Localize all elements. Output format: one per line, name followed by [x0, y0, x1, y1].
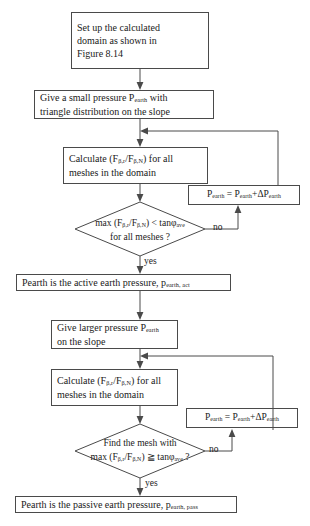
decision1-text-a: max (F — [95, 218, 122, 228]
start-box-line-2: domain as shown in — [77, 34, 157, 47]
calc2-text-b: /F — [113, 375, 121, 386]
increment1-sub-a: earth — [212, 194, 224, 200]
flowchart-canvas: Set up the calculated domain as shown in… — [0, 0, 310, 526]
increment1-sub-c: earth — [269, 194, 281, 200]
small-pressure-text-a: Give a small pressure P — [40, 92, 134, 103]
increment1-text-c: +ΔP — [252, 189, 269, 199]
start-box-line-3: Figure 8.14 — [77, 47, 123, 60]
increment2-sub-a: earth — [210, 417, 222, 423]
node-increment-box-1: Pearth = Pearth+ΔPearth — [188, 185, 300, 205]
node-calc-box-1: Calculate (Fβ,r/Fβ,N) for all meshes in … — [63, 147, 208, 184]
calc2-text-a: Calculate (F — [57, 375, 106, 386]
calc2-text-c: ) for all — [131, 375, 161, 386]
increment1-line: Pearth = Pearth+ΔPearth — [207, 188, 281, 201]
calc2-line-1: Calculate (Fβ,r/Fβ,N) for all — [57, 374, 161, 388]
edge-label-yes-1: yes — [144, 256, 157, 266]
decision2-sub-3: ave — [174, 456, 182, 462]
increment2-text-c: +ΔP — [250, 412, 267, 422]
node-active-result-box: Pearth is the active earth pressure, pea… — [16, 274, 231, 291]
calc1-text-a: Calculate (F — [69, 153, 118, 164]
node-passive-result-box: Pearth is the passive earth pressure, pe… — [15, 496, 237, 513]
larger-pressure-text: Give larger pressure P — [57, 322, 146, 333]
decision1-line-2: for all meshes ? — [60, 231, 220, 245]
passive-result-text: Pearth is the passive earth pressure, p — [21, 499, 171, 510]
calc1-line-1: Calculate (Fβ,r/Fβ,N) for all — [69, 152, 173, 166]
larger-pressure-sub: earth — [146, 326, 159, 333]
label-decision-1: max (Fβ,r/Fβ,N) < tanφave for all meshes… — [60, 217, 220, 245]
decision2-text-c: ) ≧ tanφ — [141, 452, 174, 462]
active-result-sub: earth, act — [166, 281, 190, 288]
decision1-sub-2: β,N — [137, 222, 146, 228]
node-start-box: Set up the calculated domain as shown in… — [71, 12, 209, 69]
decision1-text-c: ) < tanφ — [146, 218, 176, 228]
increment2-sub-b: earth — [238, 417, 250, 423]
calc1-sub-2: β,N — [134, 157, 143, 164]
increment2-sub-c: earth — [267, 417, 279, 423]
calc1-text-b: /F — [125, 153, 133, 164]
decision1-sub-3: ave — [176, 222, 184, 228]
larger-pressure-line-1: Give larger pressure Pearth — [57, 321, 159, 335]
small-pressure-line-1: Give a small pressure Pearth with — [40, 91, 168, 105]
calc2-sub-2: β,N — [122, 379, 131, 386]
decision2-text-d: ? — [183, 452, 190, 462]
small-pressure-line-2: triangle distribution on the slope — [40, 105, 170, 118]
passive-result-sub: earth, pass — [171, 503, 198, 510]
label-decision-2: Find the mesh with max (Fβ,r/Fβ,N) ≧ tan… — [55, 437, 225, 465]
small-pressure-sub: earth — [134, 96, 147, 103]
increment2-text-b: = P — [222, 412, 237, 422]
decision2-line-2: max (Fβ,r/Fβ,N) ≧ tanφave ? — [55, 451, 225, 465]
node-increment-box-2: Pearth = Pearth+ΔPearth — [186, 408, 298, 428]
edge-label-no-1: no — [213, 222, 223, 232]
calc2-line-2: meshes in the domain — [57, 388, 144, 401]
small-pressure-text-b: with — [147, 92, 167, 103]
node-calc-box-2: Calculate (Fβ,r/Fβ,N) for all meshes in … — [51, 369, 178, 406]
active-result-text: Pearth is the active earth pressure, p — [22, 277, 166, 288]
decision2-text-a: max (F — [91, 452, 118, 462]
calc1-text-c: ) for all — [143, 153, 173, 164]
increment1-sub-b: earth — [240, 194, 252, 200]
active-result-line: Pearth is the active earth pressure, pea… — [22, 276, 190, 290]
increment2-line: Pearth = Pearth+ΔPearth — [205, 411, 279, 424]
decision1-text-b: /F — [129, 218, 137, 228]
node-larger-pressure-box: Give larger pressure Pearth on the slope — [51, 320, 178, 349]
increment1-text-b: = P — [224, 189, 239, 199]
larger-pressure-line-2: on the slope — [57, 335, 105, 348]
decision2-line-1: Find the mesh with — [55, 437, 225, 451]
decision1-line-1: max (Fβ,r/Fβ,N) < tanφave — [60, 217, 220, 231]
edge-label-no-2: no — [209, 444, 219, 454]
passive-result-line: Pearth is the passive earth pressure, pe… — [21, 498, 198, 512]
node-small-pressure-box: Give a small pressure Pearth with triang… — [34, 90, 214, 119]
start-box-line-1: Set up the calculated — [77, 21, 160, 34]
edge-label-yes-2: yes — [145, 478, 158, 488]
calc1-line-2: meshes in the domain — [69, 166, 156, 179]
